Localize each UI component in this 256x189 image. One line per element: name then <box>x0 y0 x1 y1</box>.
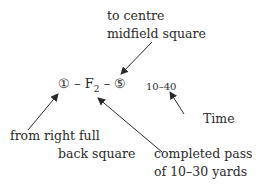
arrow-time <box>170 92 184 114</box>
arrows-layer <box>0 0 256 189</box>
arrow-action <box>98 98 162 152</box>
arrow-from-square <box>28 94 58 130</box>
arrow-to-square <box>121 42 152 74</box>
